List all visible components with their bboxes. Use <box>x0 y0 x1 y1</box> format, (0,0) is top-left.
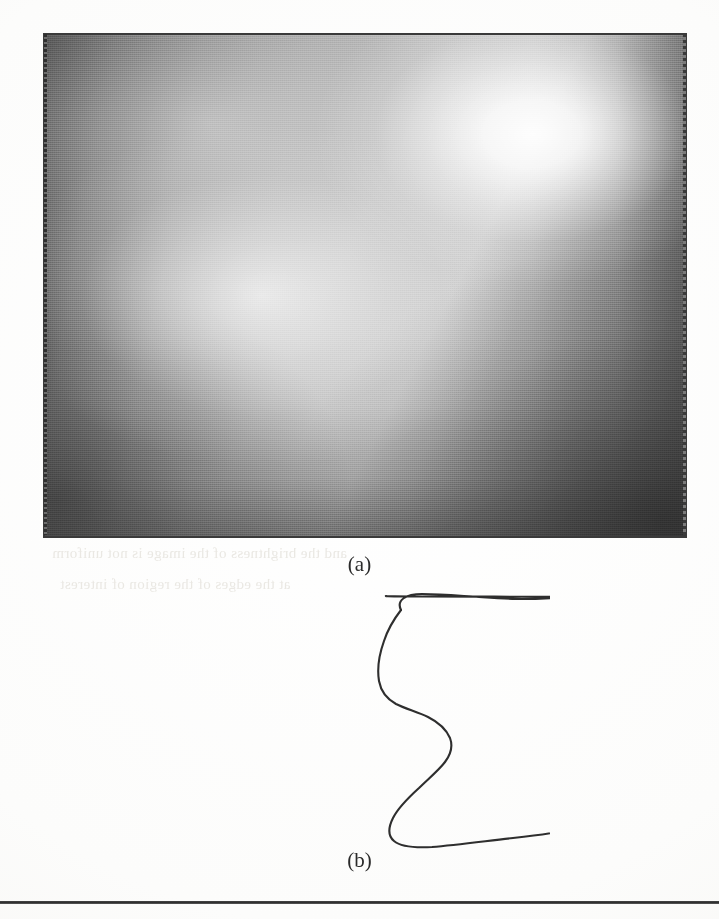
open-contour-outline-icon <box>170 585 550 855</box>
scanned-page: and the brightness of the image is not u… <box>0 0 719 919</box>
figure-a-grayscale-image <box>43 33 687 538</box>
grayscale-gradient-icon <box>43 33 687 538</box>
figure-b-contour <box>170 585 550 855</box>
figure-a-caption: (a) <box>0 552 719 577</box>
horizontal-rule-icon <box>0 901 719 904</box>
figure-b-caption: (b) <box>0 848 719 873</box>
